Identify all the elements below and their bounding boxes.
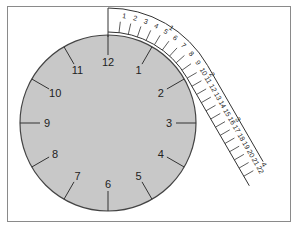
scale-tick bbox=[182, 64, 191, 70]
scale-tick bbox=[239, 163, 249, 169]
scale-inner-label: 4 bbox=[153, 22, 160, 30]
hour-label: 10 bbox=[49, 87, 61, 99]
hour-label: 11 bbox=[72, 64, 83, 76]
scale-tick bbox=[187, 73, 197, 79]
scale-inner-label: 7 bbox=[180, 41, 188, 49]
scale-tick bbox=[146, 30, 151, 40]
scale-inner-label: 9 bbox=[194, 59, 202, 66]
hour-label: 12 bbox=[102, 56, 114, 68]
scale-tick bbox=[119, 22, 120, 33]
hour-label: 7 bbox=[74, 170, 80, 182]
scale-tick bbox=[192, 81, 202, 87]
scale-tick bbox=[230, 146, 240, 152]
scale-inner-label: 1 bbox=[122, 12, 127, 20]
scale-tick bbox=[170, 48, 177, 56]
scale-tick bbox=[128, 24, 130, 35]
scale-inner-label: 2 bbox=[132, 14, 138, 22]
scale-tick bbox=[154, 35, 160, 44]
hour-label: 6 bbox=[105, 178, 111, 190]
scale-tick bbox=[162, 41, 169, 50]
scale-inner-label: 3 bbox=[143, 17, 149, 25]
scale-tick bbox=[244, 171, 254, 177]
scale-tick bbox=[211, 113, 221, 119]
hour-label: 9 bbox=[44, 117, 50, 129]
hour-label: 2 bbox=[158, 87, 164, 99]
scale-tick bbox=[197, 89, 207, 95]
scale-tick bbox=[201, 97, 211, 103]
scale-tick bbox=[137, 26, 141, 36]
clock-face: 121234567891011 bbox=[20, 35, 196, 211]
scale-tick bbox=[220, 130, 230, 136]
scale-tick bbox=[215, 122, 225, 128]
scale-inner-label: 8 bbox=[187, 50, 195, 58]
clock-scale-diagram: 121234567891011 123456789101112131415161… bbox=[0, 0, 294, 227]
hour-label: 3 bbox=[166, 117, 172, 129]
hour-label: 5 bbox=[135, 170, 141, 182]
hour-label: 8 bbox=[52, 148, 58, 160]
scale-tick bbox=[225, 138, 235, 144]
hour-label: 1 bbox=[135, 64, 141, 76]
scale-tick bbox=[176, 55, 184, 62]
hour-label: 4 bbox=[158, 148, 164, 160]
scale-inner-label: 6 bbox=[172, 34, 179, 42]
scale-tick bbox=[206, 105, 216, 111]
scale-tick bbox=[234, 154, 244, 160]
